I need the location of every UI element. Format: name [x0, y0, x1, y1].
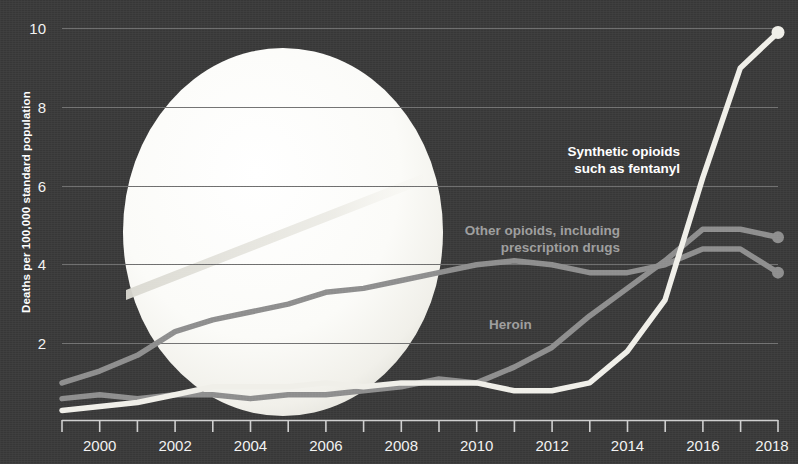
x-tick-2002: 2002 [158, 437, 191, 454]
series-layer [0, 0, 798, 464]
y-tick-4: 4 [8, 256, 46, 273]
x-tick-2010: 2010 [460, 437, 493, 454]
x-tick-2016: 2016 [686, 437, 719, 454]
annotation-other-opioids: Other opioids, including prescription dr… [400, 222, 620, 256]
x-tick-2012: 2012 [535, 437, 568, 454]
opioid-deaths-chart: Deaths per 100,000 standard population 1… [0, 0, 798, 464]
series-synthetic-opioids [62, 26, 785, 411]
annotation-synthetic-opioids: Synthetic opioids such as fentanyl [455, 143, 680, 177]
x-tick-2018: 2018 [755, 437, 788, 454]
y-tick-10: 10 [8, 20, 46, 37]
x-tick-2014: 2014 [611, 437, 644, 454]
x-tick-2000: 2000 [83, 437, 116, 454]
y-tick-2: 2 [8, 335, 46, 352]
x-tick-2008: 2008 [385, 437, 418, 454]
x-tick-2006: 2006 [309, 437, 342, 454]
annotation-heroin: Heroin [489, 316, 532, 333]
y-tick-6: 6 [8, 178, 46, 195]
x-tick-2004: 2004 [234, 437, 267, 454]
y-tick-8: 8 [8, 99, 46, 116]
